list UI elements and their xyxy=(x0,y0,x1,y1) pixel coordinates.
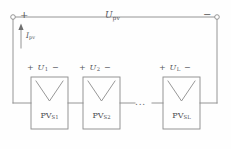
module-voltage-label-3: + UL − xyxy=(159,64,191,72)
string-current-label: Ipv xyxy=(26,32,35,40)
module-label-2: PVS2 xyxy=(83,112,120,120)
voltage-subscript-1: 1 xyxy=(45,66,49,72)
module-voltage-label-1: + U1 − xyxy=(27,64,59,72)
continuation-ellipsis: ... xyxy=(135,98,146,107)
voltage-plus-sign-3: + xyxy=(159,63,166,72)
voltage-symbol-1: U xyxy=(37,63,44,72)
module-box-2 xyxy=(83,77,120,129)
voltage-minus-sign-3: − xyxy=(184,63,191,72)
schematic-vector-layer xyxy=(0,0,231,149)
voltage-subscript-3: L xyxy=(177,66,181,72)
current-arrow-head xyxy=(18,24,23,31)
module-label-symbol-2: PV xyxy=(92,111,103,120)
string-voltage-subscript: pv xyxy=(113,14,120,21)
voltage-plus-sign-1: + xyxy=(27,63,34,72)
positive-terminal-sign: + xyxy=(20,10,28,20)
string-voltage-label: Upv xyxy=(105,11,120,20)
pv-cell-symbol-3 xyxy=(168,81,195,101)
voltage-plus-sign-2: + xyxy=(79,63,86,72)
module-label-1: PVS1 xyxy=(31,112,68,120)
module-voltage-label-2: + U2 − xyxy=(79,64,111,72)
string-voltage-symbol: U xyxy=(105,10,113,20)
negative-terminal-node xyxy=(215,15,220,20)
string-current-subscript: pv xyxy=(29,34,35,40)
module-label-subscript-1: S1 xyxy=(52,114,59,120)
voltage-symbol-3: U xyxy=(169,63,176,72)
pv-cell-symbol-2 xyxy=(88,81,115,101)
module-label-subscript-2: S2 xyxy=(104,114,111,120)
positive-terminal-node xyxy=(11,15,16,20)
module-box-1 xyxy=(31,77,68,129)
module-box-3 xyxy=(163,77,200,129)
module-label-symbol-1: PV xyxy=(40,111,51,120)
pv-cell-symbol-1 xyxy=(36,81,63,101)
module-label-3: PVSL xyxy=(163,112,200,120)
voltage-subscript-2: 2 xyxy=(97,66,101,72)
module-label-subscript-3: SL xyxy=(184,114,191,120)
circuit-diagram-canvas: + − Upv Ipv + U1 − + U2 − + UL − PVS1 PV… xyxy=(0,0,231,149)
voltage-minus-sign-2: − xyxy=(104,63,111,72)
voltage-symbol-2: U xyxy=(89,63,96,72)
voltage-minus-sign-1: − xyxy=(52,63,59,72)
module-label-symbol-3: PV xyxy=(172,111,183,120)
negative-terminal-sign: − xyxy=(203,10,211,20)
